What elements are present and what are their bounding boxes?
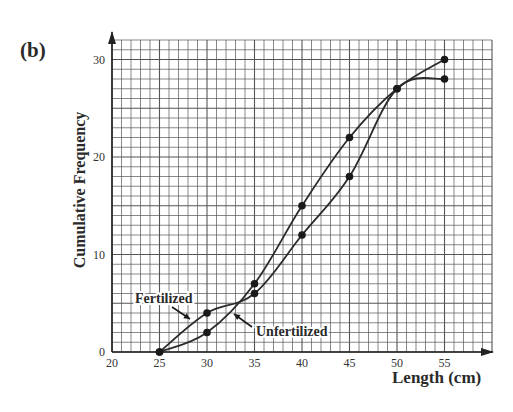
data-point <box>441 75 449 83</box>
data-point <box>346 134 354 142</box>
data-point <box>251 280 259 288</box>
svg-text:40: 40 <box>296 356 308 370</box>
data-point <box>203 329 211 337</box>
svg-text:Fertilized: Fertilized <box>135 291 193 306</box>
data-point <box>298 231 306 239</box>
svg-text:0: 0 <box>99 345 105 359</box>
panel-label: (b) <box>20 38 46 63</box>
data-point <box>346 173 354 181</box>
svg-text:20: 20 <box>106 356 118 370</box>
fertilized-label: Fertilized <box>135 291 193 319</box>
svg-text:35: 35 <box>249 356 261 370</box>
data-point <box>298 202 306 210</box>
x-axis-label: Length (cm) <box>392 368 481 388</box>
data-point <box>393 85 401 93</box>
svg-text:10: 10 <box>93 248 105 262</box>
axes <box>108 31 494 356</box>
svg-text:45: 45 <box>344 356 356 370</box>
svg-text:Unfertilized: Unfertilized <box>256 324 328 339</box>
series-annotations: FertilizedUnfertilized <box>135 291 328 339</box>
data-point <box>441 56 449 64</box>
svg-text:20: 20 <box>93 150 105 164</box>
svg-text:30: 30 <box>93 53 105 67</box>
y-axis-label: Cumulative Frequency <box>71 112 89 269</box>
svg-text:25: 25 <box>154 356 166 370</box>
data-point <box>251 290 259 298</box>
data-point <box>156 348 164 356</box>
unfertilized-label: Unfertilized <box>234 314 328 339</box>
svg-text:30: 30 <box>201 356 213 370</box>
data-point <box>203 309 211 317</box>
